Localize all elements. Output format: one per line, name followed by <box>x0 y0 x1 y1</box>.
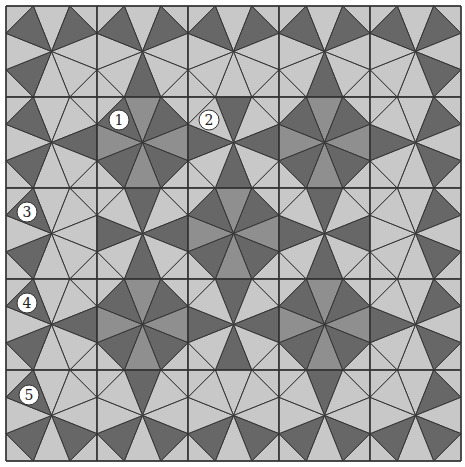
number-label-4: 4 <box>17 293 37 313</box>
number-label-3: 3 <box>17 202 37 222</box>
number-label-1: 1 <box>109 110 129 130</box>
label-number: 3 <box>23 204 32 220</box>
label-number: 4 <box>23 295 32 311</box>
label-number: 2 <box>205 112 214 128</box>
number-label-2: 2 <box>199 110 219 130</box>
number-label-5: 5 <box>19 385 39 405</box>
label-number: 1 <box>115 112 124 128</box>
tessellation-figure: 12345 <box>0 0 465 467</box>
label-number: 5 <box>25 387 34 403</box>
tile-layer <box>6 6 461 461</box>
tiling-svg: 12345 <box>0 0 465 467</box>
